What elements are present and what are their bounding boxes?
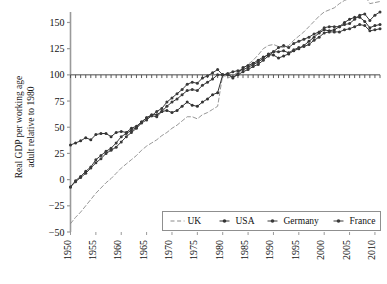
series-marker-france <box>242 68 245 71</box>
series-marker-france <box>307 43 310 46</box>
series-marker-germany <box>338 25 341 28</box>
x-tick-label: 1970 <box>163 240 174 260</box>
series-marker-germany <box>302 38 305 41</box>
series-marker-france <box>211 71 214 74</box>
series-marker-germany <box>201 84 204 87</box>
series-marker-usa <box>282 55 285 58</box>
series-marker-usa <box>74 141 77 144</box>
y-tick-label: 25 <box>55 148 65 159</box>
series-marker-france <box>196 82 199 85</box>
legend-label-usa: USA <box>236 216 255 226</box>
y-axis-label-line-2: adult relative to 1980 <box>26 86 36 167</box>
legend-marker-usa <box>223 219 227 223</box>
series-marker-france <box>191 81 194 84</box>
x-tick-label: 1980 <box>214 240 225 260</box>
y-tick-label: 150 <box>50 17 65 28</box>
y-axis-ticks-group: −50−250255075100125150 <box>49 17 71 238</box>
series-marker-france <box>313 39 316 42</box>
y-tick-label: 0 <box>60 174 65 185</box>
series-marker-germany <box>343 23 346 26</box>
y-tick-label: 50 <box>55 122 65 133</box>
series-marker-france <box>236 69 239 72</box>
series-marker-france <box>110 149 113 152</box>
x-tick-label: 1975 <box>188 240 199 260</box>
y-axis-label-group: Real GDP per working ageadult relative t… <box>14 76 36 179</box>
series-marker-france <box>89 167 92 170</box>
series-marker-usa <box>363 20 366 23</box>
x-tick-label: 1985 <box>239 240 250 260</box>
legend-label-uk: UK <box>188 216 202 226</box>
series-marker-germany <box>191 88 194 91</box>
series-marker-germany <box>115 141 118 144</box>
series-marker-france <box>120 140 123 143</box>
series-marker-germany <box>373 14 376 17</box>
y-tick-label: 100 <box>50 69 65 80</box>
y-tick-label: −50 <box>49 227 65 238</box>
series-marker-france <box>170 96 173 99</box>
series-marker-france <box>79 176 82 179</box>
series-marker-france <box>221 73 224 76</box>
series-marker-usa <box>206 97 209 100</box>
series-line-usa <box>71 17 381 145</box>
series-marker-germany <box>94 158 97 161</box>
series-marker-germany <box>155 115 158 118</box>
series-marker-germany <box>292 42 295 45</box>
series-marker-france <box>165 101 168 104</box>
series-marker-france <box>216 68 219 71</box>
series-marker-france <box>328 30 331 33</box>
series-marker-usa <box>307 40 310 43</box>
series-marker-usa <box>115 131 118 134</box>
series-marker-usa <box>79 139 82 142</box>
series-marker-germany <box>120 135 123 138</box>
series-marker-usa <box>170 111 173 114</box>
series-marker-usa <box>176 109 179 112</box>
series-marker-france <box>160 107 163 110</box>
series-marker-germany <box>368 19 371 22</box>
series-marker-usa <box>348 18 351 21</box>
series-marker-germany <box>348 22 351 25</box>
series-marker-france <box>140 122 143 125</box>
series-marker-france <box>201 77 204 80</box>
series-marker-france <box>338 30 341 33</box>
series-marker-france <box>363 24 366 27</box>
series-marker-germany <box>379 11 382 14</box>
x-tick-label: 1990 <box>264 240 275 260</box>
x-tick-label: 1965 <box>138 240 149 260</box>
series-marker-france <box>231 70 234 73</box>
series-marker-usa <box>89 138 92 141</box>
series-marker-france <box>84 172 87 175</box>
series-marker-germany <box>186 89 189 92</box>
series-marker-france <box>267 52 270 55</box>
series-marker-france <box>287 51 290 54</box>
series-marker-germany <box>318 30 321 33</box>
legend-marker-germany <box>271 219 275 223</box>
series-marker-france <box>297 46 300 49</box>
series-marker-france <box>105 152 108 155</box>
series-marker-france <box>125 135 128 138</box>
series-marker-germany <box>160 110 163 113</box>
series-marker-france <box>155 110 158 113</box>
series-marker-france <box>247 66 250 69</box>
series-marker-france <box>277 50 280 53</box>
series-marker-germany <box>196 89 199 92</box>
series-marker-usa <box>110 135 113 138</box>
series-marker-france <box>176 92 179 95</box>
series-marker-germany <box>323 26 326 29</box>
series-line-uk <box>71 0 381 224</box>
chart-figure: Real GDP per working ageadult relative t… <box>0 0 387 284</box>
series-marker-germany <box>333 25 336 28</box>
series-marker-france <box>272 50 275 53</box>
series-marker-germany <box>313 33 316 36</box>
series-marker-germany <box>211 78 214 81</box>
series-marker-usa <box>181 105 184 108</box>
series-marker-germany <box>363 13 366 16</box>
series-marker-france <box>186 83 189 86</box>
series-marker-germany <box>99 154 102 157</box>
series-marker-germany <box>277 46 280 49</box>
series-marker-france <box>257 61 260 64</box>
series-marker-france <box>282 49 285 52</box>
legend-label-germany: Germany <box>284 216 320 226</box>
legend-group: UKUSAGermanyFrance <box>163 212 381 231</box>
series-marker-germany <box>297 40 300 43</box>
x-tick-label: 2000 <box>315 240 326 260</box>
